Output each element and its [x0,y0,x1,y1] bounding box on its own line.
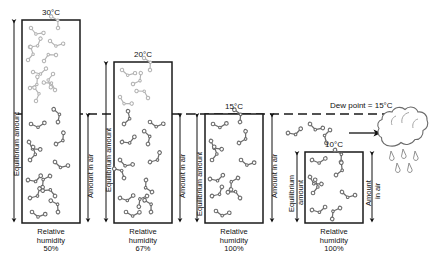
amount-in-air-label-20c: Amount in air [179,154,188,198]
column-15c-box [205,114,263,223]
equilibrium-amount-label-15c: Equilibrium amount [196,152,205,216]
column-30c-box [22,20,80,223]
amount-in-air-label-15c: Amount in air [271,154,280,198]
figure-canvas: Dew point = 15°C 30°C 20°C 15°C 10°C Equ… [0,0,430,275]
relative-humidity-block-30c: Relative humidity 50% [14,228,88,254]
temperature-label-10c: 10°C [305,141,363,150]
relative-humidity-block-10c: Relative humidity 100% [297,228,371,254]
dew-point-label: Dew point = 15°C [330,101,393,110]
relative-humidity-block-20c: Relative humidity 67% [106,228,180,254]
temperature-label-30c: 30°C [22,9,80,18]
rh-value-30c: 50% [14,245,88,254]
equilibrium-amount-label-10c-line2: amount [297,180,306,205]
temperature-label-20c: 20°C [114,51,172,60]
cloud-icon [378,107,428,146]
temperature-label-15c: 15°C [205,103,263,112]
rh-value-10c: 100% [297,245,371,254]
relative-humidity-block-15c: Relative humidity 100% [197,228,271,254]
amount-in-air-label-30c: Amount in air [87,154,96,198]
equilibrium-amount-label-20c: Equilibrium amount [105,128,114,192]
rh-value-20c: 67% [106,245,180,254]
amount-in-air-label-10c-line2: in air [374,183,383,199]
equilibrium-amount-label-30c: Equilibrium amount [13,112,22,176]
rh-value-15c: 100% [197,245,271,254]
rain-drops-icon [389,149,418,173]
